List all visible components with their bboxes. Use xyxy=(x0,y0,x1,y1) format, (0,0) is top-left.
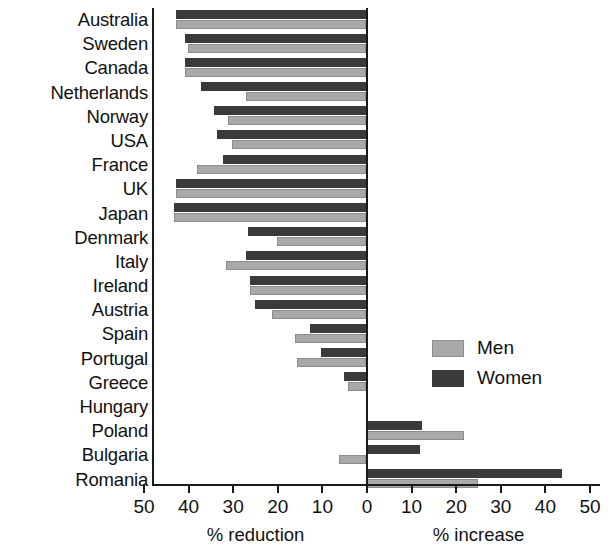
bar-men xyxy=(232,140,366,149)
bar-row xyxy=(152,468,598,492)
category-label: Italy xyxy=(0,250,148,274)
bar-women xyxy=(366,445,420,454)
bar-men xyxy=(246,92,366,101)
x-axis-tick-label: 30 xyxy=(223,496,244,518)
x-axis-tick xyxy=(277,484,279,493)
category-label: Sweden xyxy=(0,32,148,56)
category-label: UK xyxy=(0,177,148,201)
bar-row xyxy=(152,177,598,201)
bar-women xyxy=(344,372,366,381)
bar-row xyxy=(152,443,598,467)
x-axis-tick xyxy=(321,484,323,493)
bar-rows xyxy=(152,8,598,492)
x-axis-line xyxy=(152,484,600,486)
bar-row xyxy=(152,274,598,298)
legend-swatch-women xyxy=(432,370,464,387)
bar-row xyxy=(152,419,598,443)
x-axis-tick-label: 0 xyxy=(362,496,373,518)
bar-men xyxy=(176,20,366,29)
legend-item: Men xyxy=(432,333,542,363)
bar-row xyxy=(152,202,598,226)
x-axis-tick xyxy=(143,484,145,493)
legend-item: Women xyxy=(432,363,542,393)
chart-container: AustraliaSwedenCanadaNetherlandsNorwayUS… xyxy=(0,0,614,550)
category-label: Denmark xyxy=(0,226,148,250)
category-label: Hungary xyxy=(0,395,148,419)
x-axis-tick xyxy=(544,484,546,493)
bar-women xyxy=(176,179,366,188)
bar-men xyxy=(176,189,366,198)
bar-row xyxy=(152,32,598,56)
bar-men xyxy=(174,213,366,222)
category-label: Greece xyxy=(0,371,148,395)
zero-reference-line xyxy=(366,8,368,484)
category-label: Canada xyxy=(0,56,148,80)
bar-men xyxy=(226,261,366,270)
chart-legend: MenWomen xyxy=(432,333,542,393)
bar-women xyxy=(366,421,422,430)
x-axis-caption-increase: % increase xyxy=(433,524,525,546)
bar-women xyxy=(321,348,366,357)
bar-men xyxy=(295,334,366,343)
x-axis-tick xyxy=(411,484,413,493)
bar-women xyxy=(214,106,366,115)
x-axis: 504030201001020304050% reduction% increa… xyxy=(152,484,600,485)
bar-women xyxy=(250,276,366,285)
bar-women xyxy=(176,10,366,19)
category-label: France xyxy=(0,153,148,177)
x-axis-tick-label: 20 xyxy=(267,496,288,518)
bar-row xyxy=(152,298,598,322)
category-label: Australia xyxy=(0,8,148,32)
bar-men xyxy=(228,116,366,125)
x-axis-tick-label: 20 xyxy=(446,496,467,518)
y-axis-category-labels: AustraliaSwedenCanadaNetherlandsNorwayUS… xyxy=(0,8,148,492)
bar-women xyxy=(255,300,367,309)
category-label: Norway xyxy=(0,105,148,129)
category-label: Ireland xyxy=(0,274,148,298)
x-axis-tick-label: 50 xyxy=(133,496,154,518)
bar-row xyxy=(152,395,598,419)
bar-men xyxy=(277,237,366,246)
bar-men xyxy=(348,382,366,391)
x-axis-tick-label: 40 xyxy=(535,496,556,518)
x-axis-tick xyxy=(455,484,457,493)
bar-row xyxy=(152,105,598,129)
bar-women xyxy=(174,203,366,212)
bar-row xyxy=(152,129,598,153)
x-axis-tick-label: 10 xyxy=(312,496,333,518)
bar-men xyxy=(185,68,366,77)
category-label: Poland xyxy=(0,419,148,443)
category-label: USA xyxy=(0,129,148,153)
bar-row xyxy=(152,226,598,250)
bar-row xyxy=(152,153,598,177)
bar-women xyxy=(246,251,366,260)
bar-row xyxy=(152,250,598,274)
category-label: Netherlands xyxy=(0,81,148,105)
plot-area xyxy=(152,8,598,484)
category-label: Bulgaria xyxy=(0,443,148,467)
bar-row xyxy=(152,81,598,105)
bar-men xyxy=(297,358,366,367)
x-axis-tick-label: 40 xyxy=(178,496,199,518)
bar-men xyxy=(366,431,464,440)
bar-women xyxy=(201,82,366,91)
bar-women xyxy=(217,130,366,139)
x-axis-tick-label: 50 xyxy=(579,496,600,518)
category-label: Austria xyxy=(0,298,148,322)
bar-men xyxy=(339,455,366,464)
bar-women xyxy=(310,324,366,333)
category-label: Spain xyxy=(0,322,148,346)
category-label: Romania xyxy=(0,468,148,492)
x-axis-tick-label: 10 xyxy=(401,496,422,518)
x-axis-tick xyxy=(232,484,234,493)
legend-label: Women xyxy=(477,367,542,389)
bar-men xyxy=(272,310,366,319)
bar-men xyxy=(197,165,366,174)
x-axis-tick xyxy=(366,484,368,493)
bar-women xyxy=(366,469,562,478)
x-axis-caption-reduction: % reduction xyxy=(207,524,305,546)
bar-women xyxy=(248,227,366,236)
bar-women xyxy=(185,58,366,67)
x-axis-tick xyxy=(500,484,502,493)
bar-women xyxy=(223,155,366,164)
